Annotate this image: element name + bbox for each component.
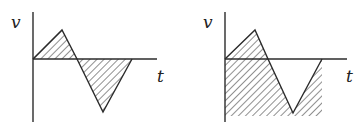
- velocity-time-diagrams: v t v t: [0, 0, 364, 136]
- y-axis-label: v: [11, 12, 21, 32]
- y-axis-label: v: [203, 12, 213, 32]
- graph-right: v t: [203, 12, 353, 122]
- shaded-area: [225, 30, 322, 116]
- x-axis-label: t: [346, 66, 353, 86]
- x-axis-label: t: [157, 66, 164, 86]
- graph-left: v t: [11, 12, 164, 122]
- shaded-area-positive: [33, 30, 77, 59]
- shaded-area-negative: [77, 59, 132, 112]
